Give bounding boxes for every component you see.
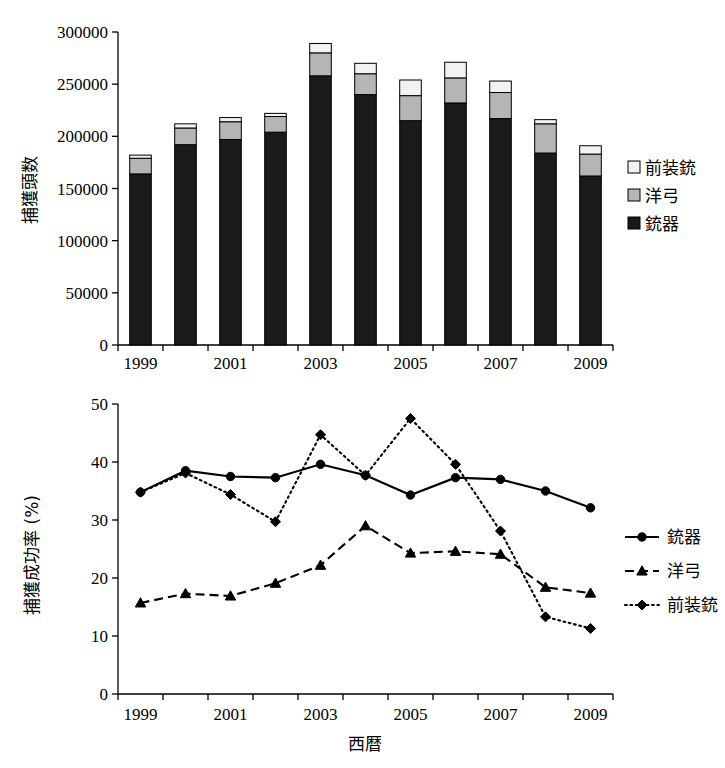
line-y-tick-label: 50 [91, 395, 108, 414]
line-legend-item: 洋弓 [625, 561, 701, 581]
bar-group [220, 118, 242, 345]
bar-segment-archery [265, 117, 287, 133]
line-legend-item: 前装銃 [625, 595, 718, 615]
bar-chart-legend: 前装銃洋弓銃器 [628, 158, 696, 234]
bar-segment-archery [175, 128, 197, 145]
line-marker-firearm [586, 504, 594, 512]
bar-segment-archery [355, 74, 377, 95]
bar-chart-bars [130, 43, 602, 345]
bar-segment-muzzleloader [400, 80, 422, 96]
bar-group [175, 124, 197, 345]
bar-legend-swatch-muzzleloader [628, 161, 640, 173]
bar-segment-muzzleloader [175, 124, 197, 128]
bar-segment-firearm [310, 76, 332, 345]
bar-segment-firearm [535, 153, 557, 345]
line-series-archery [135, 521, 595, 607]
line-y-tick-label: 30 [91, 511, 108, 530]
bar-segment-muzzleloader [310, 43, 332, 52]
bar-group [490, 81, 512, 345]
bar-segment-archery [580, 154, 602, 176]
line-marker-muzzleloader [226, 489, 236, 499]
bar-segment-firearm [580, 176, 602, 345]
bar-group [445, 62, 467, 345]
line-y-tick-label: 20 [91, 569, 108, 588]
line-path-archery [141, 526, 591, 603]
bar-y-tick-label: 300000 [57, 23, 108, 42]
line-x-tick-label: 2003 [304, 705, 338, 724]
line-series-firearm [136, 460, 594, 512]
bar-segment-archery [535, 124, 557, 153]
bar-group [580, 146, 602, 345]
bar-segment-firearm [130, 174, 152, 345]
line-marker-muzzleloader [541, 612, 551, 622]
bar-x-tick-label: 2007 [484, 354, 519, 373]
bar-y-tick-label: 200000 [57, 127, 108, 146]
bar-segment-firearm [490, 119, 512, 345]
bar-segment-muzzleloader [130, 155, 152, 158]
line-legend-marker-muzzleloader [637, 600, 647, 610]
line-marker-firearm [226, 472, 234, 480]
bar-segment-muzzleloader [535, 120, 557, 124]
line-y-tick-label: 0 [100, 685, 109, 704]
bar-segment-muzzleloader [445, 62, 467, 78]
bar-group [310, 43, 332, 345]
line-x-tick-label: 1999 [124, 705, 158, 724]
line-x-tick-label: 2007 [484, 705, 519, 724]
line-legend-marker-firearm [638, 533, 646, 541]
bar-group [265, 113, 287, 345]
bar-segment-muzzleloader [355, 63, 377, 73]
line-marker-firearm [541, 487, 549, 495]
line-marker-muzzleloader [451, 459, 461, 469]
line-marker-muzzleloader [136, 487, 146, 497]
line-marker-firearm [451, 473, 459, 481]
bar-legend-label: 前装銃 [645, 158, 696, 178]
bar-group [535, 120, 557, 345]
line-marker-firearm [316, 460, 324, 468]
bar-segment-archery [490, 93, 512, 119]
line-marker-archery [360, 521, 370, 530]
line-marker-muzzleloader [271, 517, 281, 527]
line-legend-label: 前装銃 [667, 595, 718, 615]
line-marker-archery [315, 560, 325, 569]
bar-segment-firearm [445, 103, 467, 345]
line-marker-firearm [406, 491, 414, 499]
bar-group [130, 155, 152, 345]
bar-segment-firearm [265, 132, 287, 345]
bar-segment-muzzleloader [580, 146, 602, 154]
bar-x-tick-label: 2009 [574, 354, 608, 373]
line-legend-label: 洋弓 [667, 561, 701, 581]
line-x-tick-label: 2009 [574, 705, 608, 724]
bar-y-tick-label: 100000 [57, 232, 108, 251]
bar-segment-muzzleloader [220, 118, 242, 122]
bar-y-tick-label: 250000 [57, 75, 108, 94]
line-marker-archery [585, 588, 595, 597]
line-chart-axes: 01020304050199920012003200520072009 [91, 395, 613, 724]
line-marker-firearm [496, 475, 504, 483]
bar-chart: 0500001000001500002000002500003000001999… [0, 0, 725, 385]
line-marker-firearm [271, 473, 279, 481]
bar-segment-firearm [400, 121, 422, 345]
bar-legend-swatch-firearm [628, 217, 640, 229]
figure-container: 0500001000001500002000002500003000001999… [0, 0, 725, 768]
line-marker-muzzleloader [496, 526, 506, 536]
bar-y-axis-title: 捕獲頭数 [20, 156, 40, 224]
bar-segment-firearm [355, 95, 377, 345]
line-legend-item: 銃器 [625, 527, 701, 547]
bar-segment-muzzleloader [490, 81, 512, 92]
bar-y-tick-label: 0 [100, 336, 109, 355]
bar-segment-firearm [220, 139, 242, 345]
bar-legend-label: 銃器 [645, 214, 679, 234]
line-y-axis-title: 捕獲成功率 (%) [22, 495, 42, 615]
line-chart-svg: 01020304050199920012003200520072009 銃器洋弓… [0, 385, 725, 768]
line-x-tick-label: 2005 [394, 705, 428, 724]
bar-group [400, 80, 422, 345]
bar-x-tick-label: 1999 [124, 354, 158, 373]
line-chart-series [135, 414, 595, 634]
line-chart: 01020304050199920012003200520072009 銃器洋弓… [0, 385, 725, 768]
bar-chart-svg: 0500001000001500002000002500003000001999… [0, 0, 725, 385]
line-x-tick-label: 2001 [214, 705, 248, 724]
bar-y-tick-label: 150000 [57, 180, 108, 199]
bar-segment-archery [445, 78, 467, 103]
line-x-axis-title: 西暦 [348, 734, 382, 754]
bar-y-tick-label: 50000 [66, 284, 109, 303]
